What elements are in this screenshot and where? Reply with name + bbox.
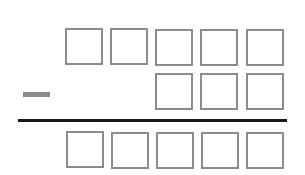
minuend-digit-box-1[interactable] — [65, 28, 103, 65]
sum-line-divider — [18, 119, 287, 122]
subtrahend-digit-box-2[interactable] — [200, 73, 238, 110]
difference-digit-box-4[interactable] — [201, 132, 239, 169]
subtrahend-digit-box-1[interactable] — [155, 73, 193, 110]
difference-digit-box-3[interactable] — [156, 132, 194, 169]
minuend-digit-box-3[interactable] — [155, 29, 193, 66]
difference-digit-box-2[interactable] — [111, 132, 149, 169]
minus-sign-icon — [23, 92, 50, 97]
subtrahend-digit-box-3[interactable] — [246, 73, 284, 110]
minuend-digit-box-2[interactable] — [110, 28, 148, 65]
minuend-digit-box-4[interactable] — [200, 29, 238, 66]
difference-digit-box-1[interactable] — [66, 131, 104, 168]
minuend-digit-box-5[interactable] — [246, 29, 284, 66]
difference-digit-box-5[interactable] — [246, 132, 284, 169]
